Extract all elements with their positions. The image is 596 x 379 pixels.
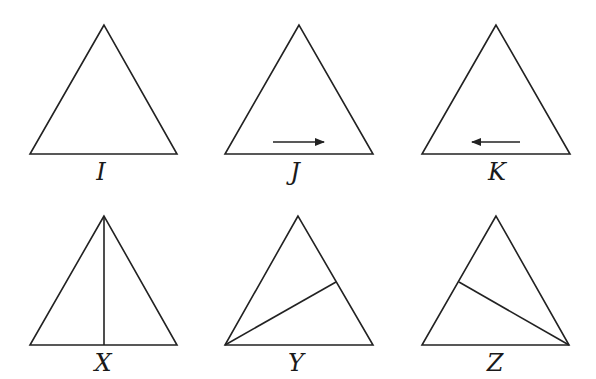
figure-label-j: J [290, 160, 300, 184]
cut-line-y [225, 282, 336, 345]
figure-label-z: Z [487, 351, 504, 375]
triangle-y [225, 216, 373, 345]
cut-line-z [459, 282, 569, 345]
figure-label-k: K [488, 160, 506, 184]
triangle-z [422, 216, 569, 345]
figure-label-y: Y [288, 351, 304, 375]
triangles-diagram [0, 0, 596, 379]
figure-label-x: X [94, 351, 111, 375]
figure-label-i: I [96, 160, 105, 184]
triangle-k [422, 25, 570, 154]
triangle-i [30, 25, 177, 154]
triangle-j [225, 25, 373, 154]
